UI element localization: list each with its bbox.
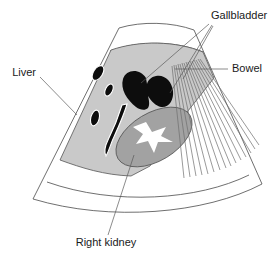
label-bowel: Bowel <box>232 62 262 74</box>
ultrasound-diagram-figure: Gallbladder Bowel Liver Right kidney <box>0 0 280 261</box>
ultrasound-sector-illustration: Gallbladder Bowel Liver Right kidney <box>0 0 280 261</box>
label-right-kidney: Right kidney <box>76 236 137 248</box>
label-liver: Liver <box>12 66 36 78</box>
label-gallbladder: Gallbladder <box>211 9 268 21</box>
shadow-ray <box>192 61 241 160</box>
leader-liver <box>40 77 77 115</box>
far-field-arc <box>47 175 249 197</box>
shadow-ray <box>194 60 246 157</box>
